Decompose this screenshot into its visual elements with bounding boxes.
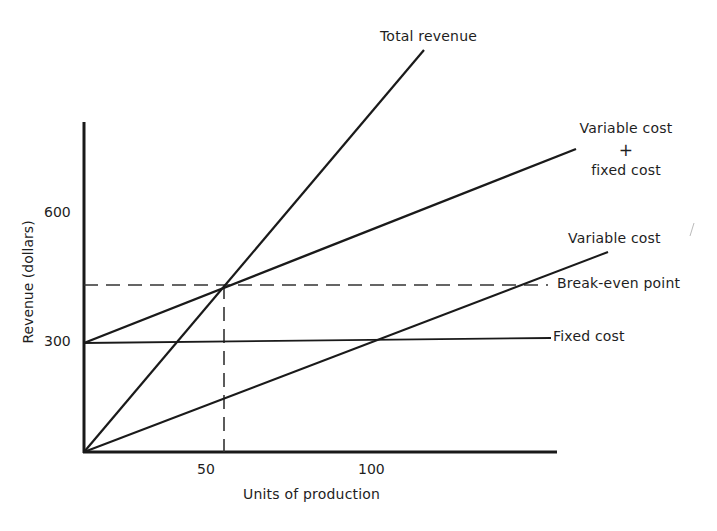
break-even-chart	[0, 0, 717, 531]
label-total-revenue: Total revenue	[380, 28, 477, 44]
y-tick-300: 300	[44, 333, 71, 349]
x-tick-100: 100	[358, 461, 385, 477]
label-break-even-point: Break-even point	[557, 275, 680, 291]
label-vc-fc-line2: fixed cost	[556, 162, 696, 178]
label-variable-cost: Variable cost	[568, 230, 661, 246]
label-vc-fc-plus: +	[556, 140, 696, 160]
fixed-cost-line	[84, 338, 551, 343]
y-tick-600: 600	[44, 204, 71, 220]
stray-mark	[690, 223, 694, 236]
x-tick-50: 50	[197, 461, 215, 477]
label-fixed-cost: Fixed cost	[553, 328, 625, 344]
y-axis-label: Revenue (dollars)	[20, 220, 36, 343]
total-cost-line	[84, 149, 576, 343]
total-revenue-line	[84, 50, 424, 452]
variable-cost-line	[84, 252, 608, 452]
x-axis-label: Units of production	[243, 486, 380, 502]
label-vc-fc-line1: Variable cost	[556, 120, 696, 136]
